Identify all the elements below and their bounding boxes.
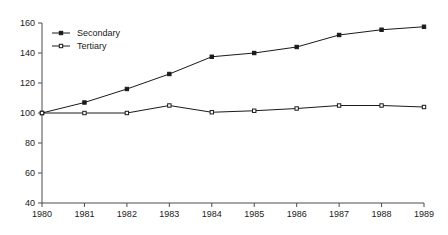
- x-axis-tick-label: 1989: [414, 209, 434, 219]
- legend-label: Secondary: [77, 28, 121, 38]
- x-axis-tick-label: 1983: [159, 209, 179, 219]
- y-axis-tick-label: 40: [25, 198, 35, 208]
- data-point-marker: [83, 111, 86, 114]
- data-point-marker: [337, 33, 340, 36]
- legend-marker-sample: [59, 31, 62, 34]
- x-axis-tick-label: 1987: [329, 209, 349, 219]
- x-axis-tick-label: 1981: [74, 209, 94, 219]
- data-point-marker: [337, 104, 340, 107]
- data-point-marker: [380, 104, 383, 107]
- y-axis-tick-label: 140: [20, 48, 35, 58]
- data-point-marker: [253, 109, 256, 112]
- x-axis-tick-label: 1982: [117, 209, 137, 219]
- x-axis-tick-label: 1988: [372, 209, 392, 219]
- data-point-marker: [253, 51, 256, 54]
- data-point-marker: [40, 111, 43, 114]
- y-axis-tick-label: 160: [20, 18, 35, 28]
- data-point-marker: [422, 25, 425, 28]
- data-point-marker: [125, 87, 128, 90]
- legend-marker-sample: [59, 44, 62, 47]
- data-point-marker: [168, 72, 171, 75]
- data-point-marker: [210, 55, 213, 58]
- line-chart: 406080100120140160 198019811982198319841…: [0, 0, 448, 235]
- y-axis-tick-label: 100: [20, 108, 35, 118]
- data-point-marker: [422, 105, 425, 108]
- legend-label: Tertiary: [77, 41, 107, 51]
- data-point-marker: [83, 101, 86, 104]
- x-axis-tick-label: 1986: [287, 209, 307, 219]
- data-point-marker: [295, 107, 298, 110]
- data-point-marker: [380, 28, 383, 31]
- data-point-marker: [125, 111, 128, 114]
- y-axis-tick-label: 60: [25, 168, 35, 178]
- data-point-marker: [168, 104, 171, 107]
- x-axis-tick-label: 1980: [32, 209, 52, 219]
- x-axis-tick-label: 1985: [244, 209, 264, 219]
- x-axis-tick-label: 1984: [202, 209, 222, 219]
- chart-background: [0, 0, 448, 235]
- data-point-marker: [210, 111, 213, 114]
- chart-canvas: 406080100120140160 198019811982198319841…: [0, 0, 448, 235]
- y-axis-tick-label: 120: [20, 78, 35, 88]
- data-point-marker: [295, 45, 298, 48]
- y-axis-tick-label: 80: [25, 138, 35, 148]
